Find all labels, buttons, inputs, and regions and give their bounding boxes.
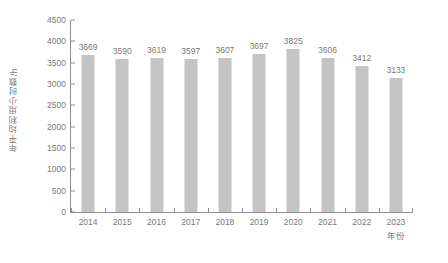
y-tick-mark [71,62,75,63]
bar-value-label: 3590 [113,46,132,56]
x-tick-mark [242,208,243,212]
y-tick-label: 0 [61,207,66,217]
bar-value-label: 3607 [215,45,234,55]
bar-value-label: 3619 [147,45,166,55]
y-tick-label: 1000 [47,164,66,174]
x-tick-mark [139,208,140,212]
bar-chart: 年平均利用小时数/h 05001000150020002500300035004… [0,0,448,263]
y-tick-mark [71,169,75,170]
y-tick-mark [71,105,75,106]
x-tick-label: 2014 [79,217,98,227]
y-tick-label: 3500 [47,58,66,68]
x-tick-label: 2019 [250,217,269,227]
y-tick-mark [71,41,75,42]
bar: 3606 [321,58,334,212]
plot-area: 050010001500200025003000350040004500 366… [70,20,413,213]
y-tick-mark [71,20,75,21]
bar-value-label: 3412 [352,53,371,63]
y-tick-label: 4000 [47,36,66,46]
x-tick-label: 2023 [386,217,405,227]
x-tick-mark [276,208,277,212]
x-tick-label: 2018 [215,217,234,227]
bar: 3669 [82,55,95,212]
x-axis-title: 年份 [387,229,405,241]
x-tick-label: 2015 [113,217,132,227]
bar-value-label: 3597 [181,46,200,56]
x-tick-mark [208,208,209,212]
x-tick-mark [412,208,413,212]
bar-value-label: 3606 [318,45,337,55]
y-tick-mark [71,126,75,127]
x-tick-label: 2022 [352,217,371,227]
bar: 3607 [218,58,231,212]
y-tick-label: 1500 [47,143,66,153]
bar-value-label: 3669 [79,42,98,52]
y-tick-label: 4500 [47,15,66,25]
bar: 3133 [389,78,402,212]
x-tick-mark [345,208,346,212]
y-tick-label: 500 [52,186,66,196]
bar: 3825 [287,49,300,212]
y-tick-label: 2500 [47,100,66,110]
bar-value-label: 3825 [284,36,303,46]
bar-value-label: 3133 [386,65,405,75]
y-tick-label: 3000 [47,79,66,89]
x-tick-mark [174,208,175,212]
bar: 3697 [253,54,266,212]
x-tick-label: 2020 [284,217,303,227]
x-tick-label: 2021 [318,217,337,227]
bar: 3619 [150,58,163,212]
x-tick-mark [310,208,311,212]
x-tick-mark [105,208,106,212]
x-tick-mark [71,208,72,212]
y-tick-mark [71,84,75,85]
y-axis-title: 年平均利用小时数/h [6,30,22,190]
x-tick-label: 2017 [181,217,200,227]
x-tick-mark [379,208,380,212]
y-tick-label: 2000 [47,122,66,132]
bar: 3412 [355,66,368,212]
bar: 3590 [116,59,129,212]
bar: 3597 [184,59,197,212]
y-tick-mark [71,148,75,149]
y-tick-mark [71,190,75,191]
x-tick-label: 2016 [147,217,166,227]
bar-value-label: 3697 [250,41,269,51]
